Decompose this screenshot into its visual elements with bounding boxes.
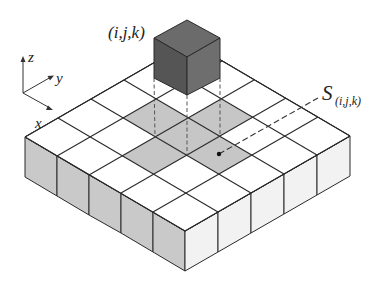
surface-label-subscript: (i,j,k) xyxy=(335,94,361,108)
axis-y-label: y xyxy=(54,70,63,86)
axis-x-label: x xyxy=(34,115,42,131)
axis-z-label: z xyxy=(27,49,34,65)
surface-label: S xyxy=(322,81,333,105)
axis-triad xyxy=(21,56,55,110)
cube-coordinate-label: (i,j,k) xyxy=(108,23,145,42)
voxel-diagram-overlay: z y x (i,j,k) S (i,j,k) xyxy=(0,0,381,285)
